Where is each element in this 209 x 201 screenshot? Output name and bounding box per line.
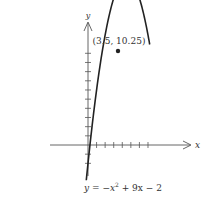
vertex-point (116, 49, 120, 53)
vertex-label: (3.5, 10.25) (93, 36, 146, 46)
y-axis-label: y (85, 11, 91, 20)
x-axis-label: x (195, 140, 200, 150)
equation-rhs: + 9x − 2 (119, 183, 162, 193)
parabola-graph: (3.5, 10.25) y x y = −x2 + 9x − 2 (0, 0, 209, 201)
equation-label: y = −x2 + 9x − 2 (83, 181, 162, 193)
equation-lhs: y = −x (83, 183, 115, 193)
parabola-curve (86, 0, 149, 180)
